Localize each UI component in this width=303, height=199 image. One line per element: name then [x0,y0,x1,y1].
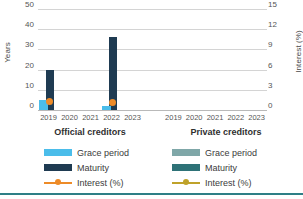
bottom-divider [0,193,303,195]
legend-label: Interest (%) [77,178,124,188]
legend-marker-dot [183,179,189,185]
legend-marker-dot [55,179,61,185]
y-axis-right-tick-label: 0 [268,102,288,110]
y-axis-left-tick-label: 40 [14,21,34,29]
y-axis-left-tick-label: 50 [14,1,34,9]
x-axis-tick-label: 2023 [122,113,143,122]
category-slot [59,9,80,110]
legend-swatch-icon [172,145,200,160]
legend-official-creditors: Grace periodMaturityInterest (%) [44,145,129,190]
legend-swatch-icon [172,175,200,190]
category-slot [80,9,101,110]
y-axis-left-title: Years [3,31,12,75]
x-axis-tick-label: 2021 [80,113,101,122]
category-slot [184,9,205,110]
y-axis-left-tick-label: 20 [14,62,34,70]
category-slot [38,9,59,110]
y-axis-left-tick-label: 30 [14,41,34,49]
x-axis-tick-label: 2020 [59,113,80,122]
legend-color-box [172,164,200,171]
y-axis-right-tick-label: 15 [268,1,288,9]
bar-grace-period [102,106,111,110]
x-axis-tick-label: 2022 [101,113,122,122]
legend-label: Interest (%) [205,178,252,188]
legend-item[interactable]: Grace period [172,145,257,160]
legend-color-box [172,149,200,156]
legend-item[interactable]: Grace period [44,145,129,160]
legend-color-box [44,164,72,171]
legend-item[interactable]: Interest (%) [172,175,257,190]
y-axis-right-tick-label: 12 [268,21,288,29]
x-axis-tick-label: 2023 [246,113,267,122]
legend-item[interactable]: Maturity [172,160,257,175]
panel-title-private: Private creditors [160,127,292,137]
category-slot [122,9,143,110]
x-axis-labels-private: 20192020202120222023 [163,113,267,123]
x-axis-line [38,110,267,111]
category-slot [101,9,122,110]
legend-private-creditors: Grace periodMaturityInterest (%) [172,145,257,190]
plot-area [38,9,267,111]
legend-label: Grace period [205,148,257,158]
legend-item[interactable]: Maturity [44,160,129,175]
x-axis-tick-label: 2022 [225,113,246,122]
legend-swatch-icon [44,145,72,160]
legend-color-box [44,149,72,156]
panel-private-creditors [163,9,267,110]
legend-swatch-icon [44,175,72,190]
panel-official-creditors [38,9,143,110]
legend-label: Maturity [205,163,237,173]
legend-swatch-icon [172,160,200,175]
panel-title-official: Official creditors [24,127,156,137]
y-axis-left-tick-label: 10 [14,82,34,90]
y-axis-left-tick-label: 0 [14,102,34,110]
y-axis-right-tick-label: 6 [268,62,288,70]
category-slot [163,9,184,110]
category-slot [205,9,226,110]
category-slot [246,9,267,110]
legend-item[interactable]: Interest (%) [44,175,129,190]
y-axis-right-title: Interest (%) [294,29,303,75]
y-axis-right-ticks: 15129630 [268,5,288,111]
x-axis-tick-label: 2021 [205,113,226,122]
legend-label: Maturity [77,163,109,173]
point-interest [46,98,53,105]
x-axis-tick-label: 2020 [184,113,205,122]
y-axis-left-ticks: 50403020100 [14,5,34,111]
x-axis-tick-label: 2019 [38,113,59,122]
y-axis-right-tick-label: 9 [268,41,288,49]
chart-container: Years Interest (%) 50403020100 15129630 … [0,0,303,199]
y-axis-right-tick-label: 3 [268,82,288,90]
legend-label: Grace period [77,148,129,158]
category-slot [225,9,246,110]
x-axis-labels-official: 20192020202120222023 [38,113,143,123]
legend-swatch-icon [44,160,72,175]
x-axis-tick-label: 2019 [163,113,184,122]
